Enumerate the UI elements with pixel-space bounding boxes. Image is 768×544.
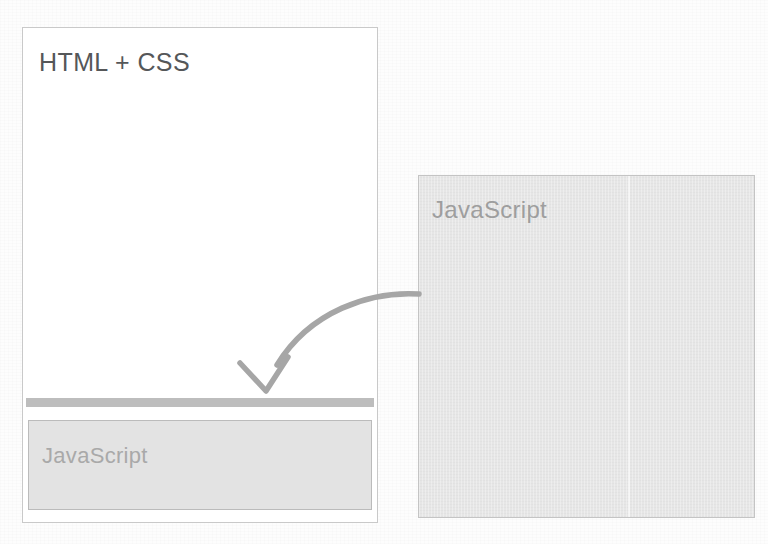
- javascript-subbox-label: JavaScript: [42, 443, 148, 469]
- javascript-panel-label: JavaScript: [432, 196, 547, 224]
- javascript-subbox[interactable]: JavaScript: [28, 420, 372, 510]
- diagram-canvas: HTML + CSS JavaScript JavaScript: [0, 0, 768, 544]
- gray-separator-bar: [26, 398, 374, 407]
- html-css-panel[interactable]: HTML + CSS JavaScript: [22, 27, 378, 523]
- javascript-panel[interactable]: JavaScript: [418, 175, 755, 518]
- javascript-panel-texture: [419, 176, 754, 517]
- page-fold-seam: [628, 176, 630, 517]
- html-css-panel-label: HTML + CSS: [39, 48, 190, 77]
